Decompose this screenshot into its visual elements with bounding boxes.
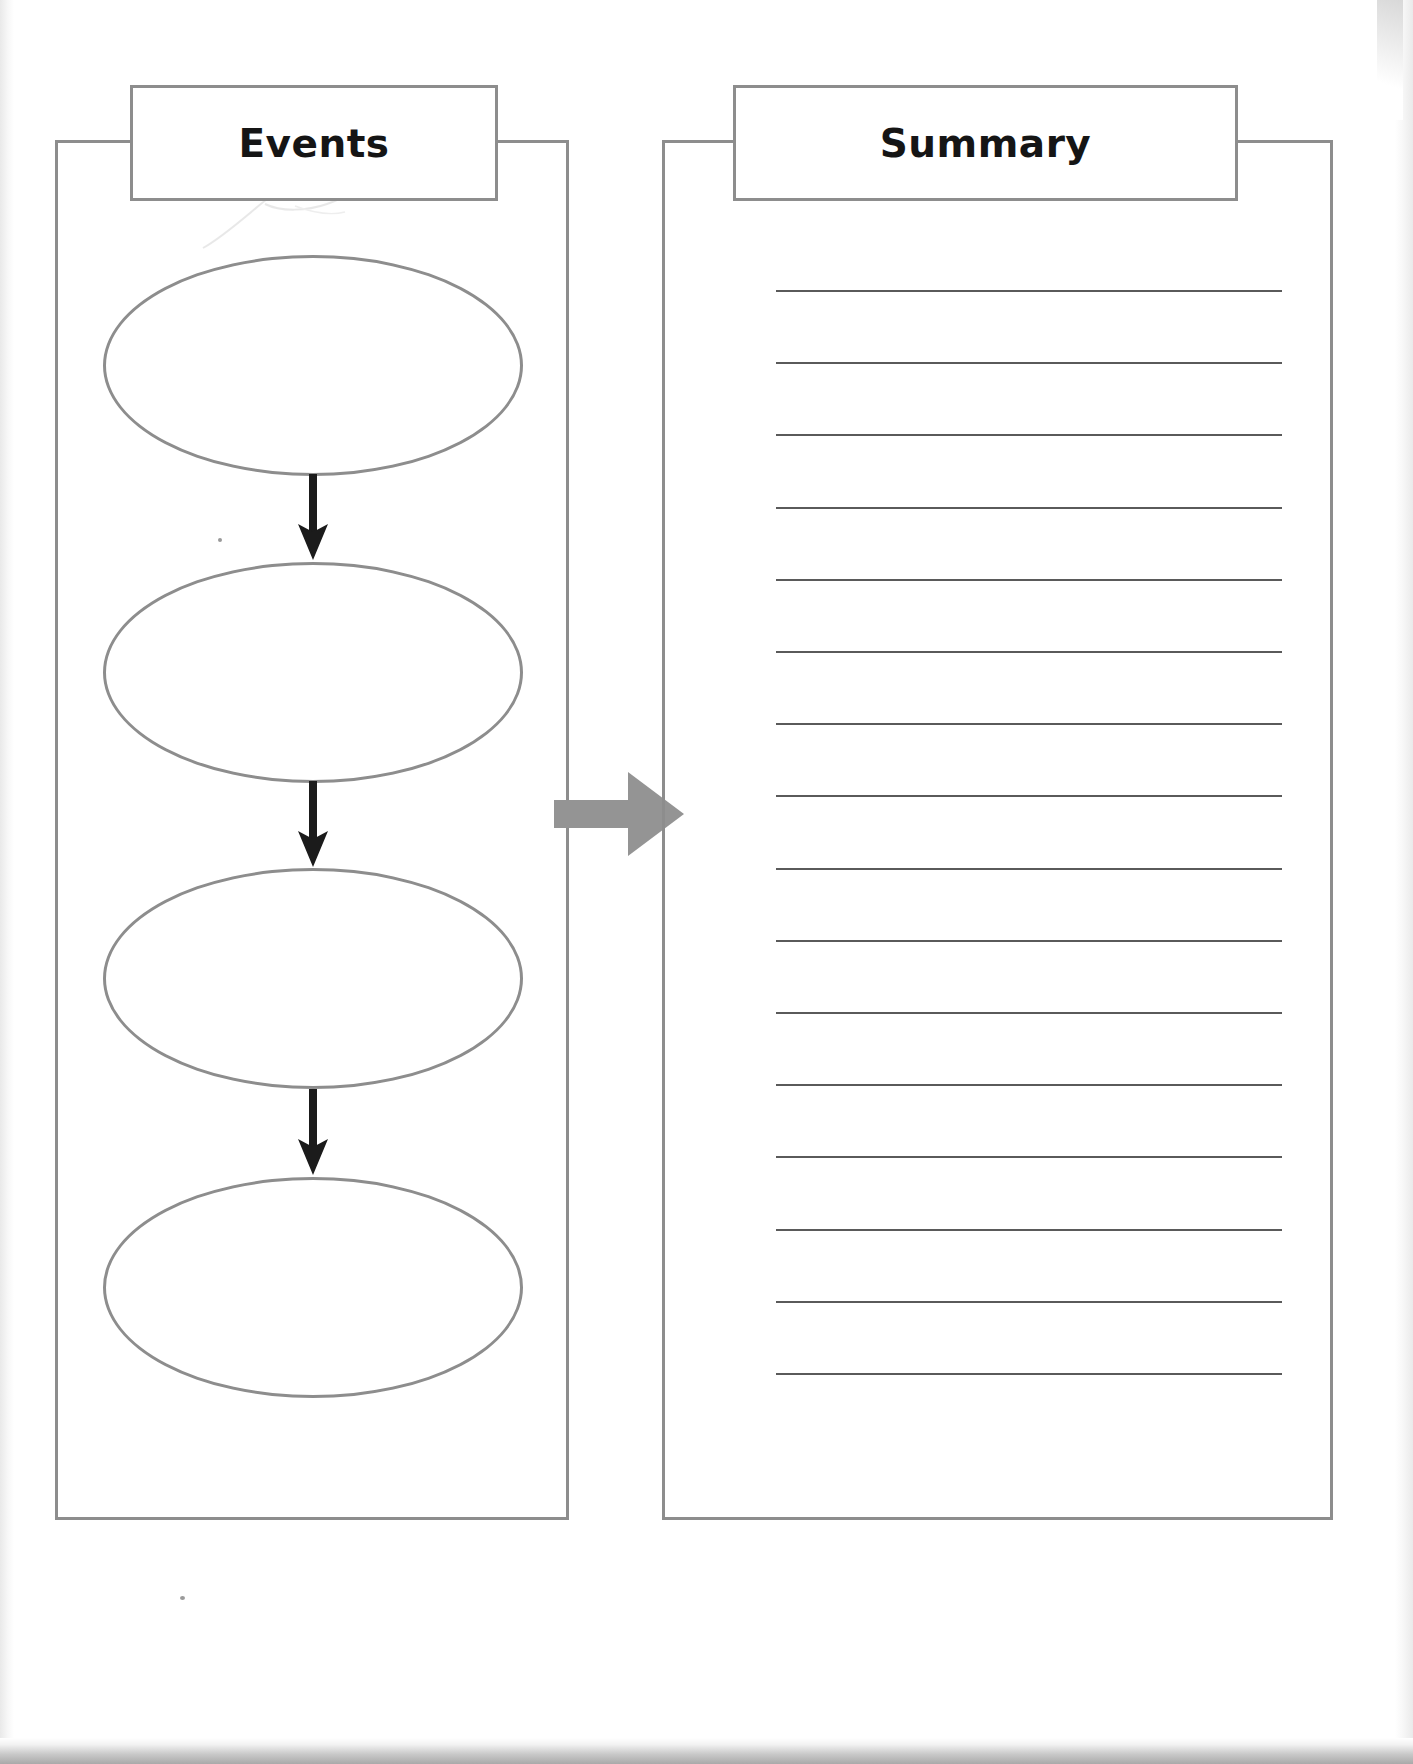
scan-edge-left	[0, 0, 14, 1764]
down-arrow-icon	[290, 474, 336, 560]
scan-speck	[180, 1596, 185, 1600]
scan-edge-right	[1395, 0, 1413, 1764]
summary-line-9[interactable]	[776, 868, 1282, 870]
down-arrow-icon	[290, 781, 336, 867]
summary-title: Summary	[880, 121, 1092, 166]
event-ellipse-4[interactable]	[103, 1177, 523, 1398]
summary-line-16[interactable]	[776, 1373, 1282, 1375]
events-title: Events	[238, 121, 389, 166]
summary-line-5[interactable]	[776, 579, 1282, 581]
summary-line-7[interactable]	[776, 723, 1282, 725]
summary-line-10[interactable]	[776, 940, 1282, 942]
down-arrow-icon	[290, 1089, 336, 1175]
event-ellipse-3[interactable]	[103, 868, 523, 1089]
summary-line-8[interactable]	[776, 795, 1282, 797]
event-ellipse-2[interactable]	[103, 562, 523, 783]
scan-edge-bottom	[0, 1738, 1413, 1764]
summary-line-14[interactable]	[776, 1229, 1282, 1231]
scan-speck	[218, 538, 222, 542]
summary-line-6[interactable]	[776, 651, 1282, 653]
summary-line-12[interactable]	[776, 1084, 1282, 1086]
scan-corner-top-right	[1377, 0, 1403, 120]
summary-header-box: Summary	[733, 85, 1238, 201]
summary-line-1[interactable]	[776, 290, 1282, 292]
summary-line-15[interactable]	[776, 1301, 1282, 1303]
summary-line-2[interactable]	[776, 362, 1282, 364]
summary-line-11[interactable]	[776, 1012, 1282, 1014]
worksheet-page: Events Summary	[0, 0, 1413, 1764]
events-header-box: Events	[130, 85, 498, 201]
summary-panel	[662, 140, 1333, 1520]
event-ellipse-1[interactable]	[103, 255, 523, 476]
summary-line-4[interactable]	[776, 507, 1282, 509]
summary-line-13[interactable]	[776, 1156, 1282, 1158]
summary-line-3[interactable]	[776, 434, 1282, 436]
